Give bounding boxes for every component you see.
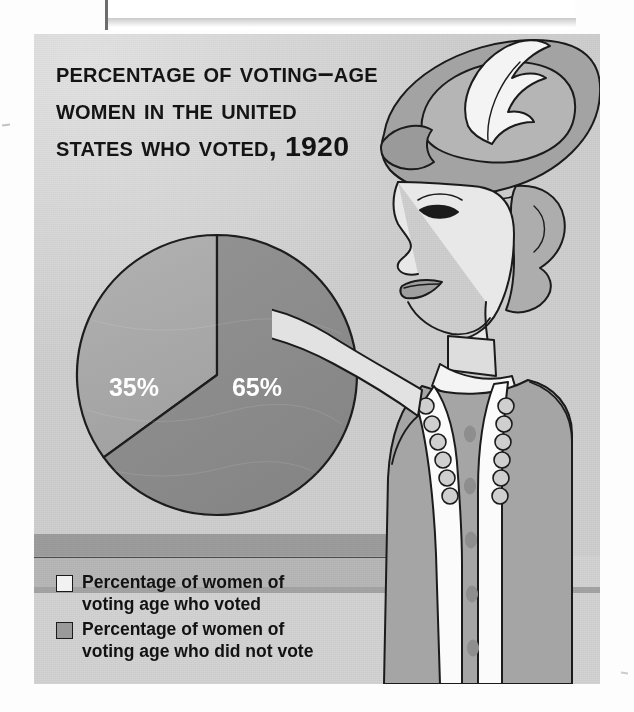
- chart-legend: Percentage of women of voting age who vo…: [56, 572, 456, 666]
- neck: [448, 336, 496, 376]
- page-edge-shadow: [108, 18, 576, 27]
- legend-swatch-voted: [56, 575, 73, 592]
- scanned-page: 35% 65%: [0, 0, 634, 712]
- title-line-3: States Who Voted, 1920: [56, 130, 349, 162]
- legend-label-not-voted: Percentage of women of voting age who di…: [82, 619, 313, 662]
- lips: [400, 280, 442, 298]
- figure-title: Percentage of Voting–Age Women in the Un…: [56, 54, 486, 165]
- pie-label-voted: 35%: [109, 373, 159, 401]
- title-line-1: Percentage of Voting–Age: [56, 56, 378, 88]
- legend-swatch-not-voted: [56, 622, 73, 639]
- legend-item-voted: Percentage of women of voting age who vo…: [56, 572, 456, 615]
- hair: [506, 186, 565, 313]
- legend-item-not-voted: Percentage of women of voting age who di…: [56, 619, 456, 662]
- arm: [272, 308, 422, 416]
- chin-jaw-line: [408, 302, 490, 334]
- legend-label-voted: Percentage of women of voting age who vo…: [82, 572, 284, 615]
- scan-speck-right: [621, 671, 628, 674]
- figure-panel: 35% 65%: [34, 34, 600, 684]
- scan-speck-left: [2, 123, 10, 126]
- title-line-2: Women in the United: [56, 93, 297, 125]
